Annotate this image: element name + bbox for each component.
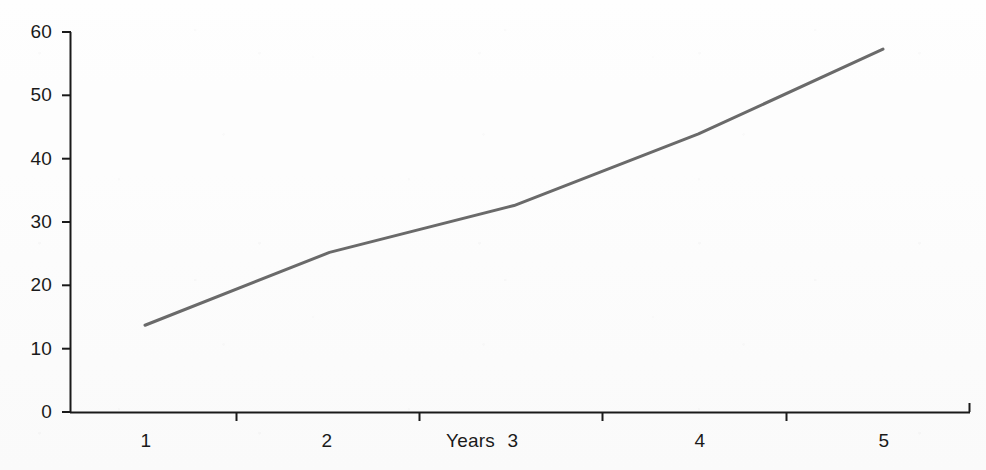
x-tick-label-4: 4 — [695, 430, 706, 452]
y-tick-label-20: 20 — [18, 274, 52, 296]
x-tick-label-2: 2 — [322, 430, 333, 452]
line-chart-figure: 60 50 40 30 20 10 0 1 2 3 4 5 Years — [0, 0, 986, 470]
y-tick-label-0: 0 — [18, 401, 52, 423]
y-tick-label-10: 10 — [18, 338, 52, 360]
y-tick-label-50: 50 — [18, 84, 52, 106]
x-tick-label-1: 1 — [141, 430, 152, 452]
y-tick-label-40: 40 — [18, 148, 52, 170]
y-tick-label-30: 30 — [18, 211, 52, 233]
y-tick-label-60: 60 — [18, 21, 52, 43]
chart-plot-area — [0, 0, 986, 470]
x-axis-title: Years — [446, 430, 495, 452]
x-tick-label-5: 5 — [879, 430, 890, 452]
x-tick-label-3: 3 — [508, 430, 519, 452]
data-series-line — [145, 49, 883, 325]
